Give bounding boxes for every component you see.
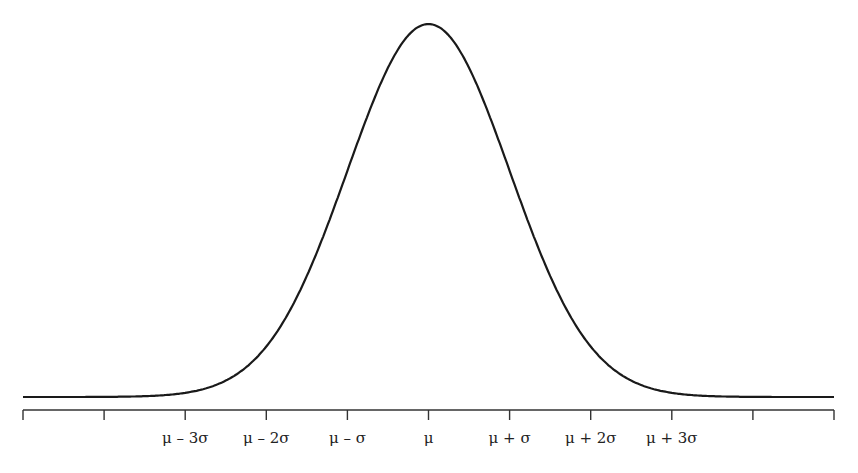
x-tick-label: μ – 3σ	[162, 429, 209, 447]
normal-distribution-curve	[23, 24, 834, 397]
x-tick-label: μ – σ	[329, 429, 366, 447]
x-tick-label: μ + 2σ	[565, 429, 617, 447]
bell-curve-chart: μ – 3σμ – 2σμ – σμμ + σμ + 2σμ + 3σ	[0, 0, 858, 473]
x-axis-tick-labels: μ – 3σμ – 2σμ – σμμ + σμ + 2σμ + 3σ	[162, 429, 698, 447]
x-axis	[23, 410, 834, 420]
x-tick-label: μ – 2σ	[243, 429, 290, 447]
x-tick-label: μ + σ	[489, 429, 531, 447]
x-tick-label: μ	[424, 429, 434, 447]
x-tick-label: μ + 3σ	[646, 429, 698, 447]
